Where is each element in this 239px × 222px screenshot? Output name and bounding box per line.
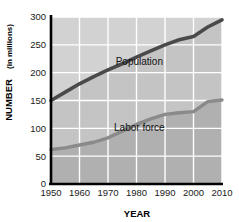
population-labor-force-area-chart: 050100150200250300 195019601970198019902…	[0, 0, 239, 222]
series-annotation-population: Population	[116, 56, 163, 67]
series-annotation-labor-force: Labor force	[114, 122, 165, 133]
x-axis-tick-labels: 1950196019701980199020002010	[40, 187, 232, 198]
y-axis-title-unit: (in millions)	[5, 24, 14, 69]
x-tick-label-1980: 1980	[126, 187, 147, 198]
y-axis-tick-labels: 050100150200250300	[30, 11, 46, 189]
y-tick-label-50: 50	[35, 151, 46, 162]
y-tick-label-150: 150	[30, 95, 46, 106]
y-tick-label-200: 200	[30, 67, 46, 78]
y-tick-label-100: 100	[30, 123, 46, 134]
x-tick-label-1990: 1990	[154, 187, 175, 198]
chart-container: 050100150200250300 195019601970198019902…	[0, 0, 239, 222]
x-tick-label-1970: 1970	[97, 187, 118, 198]
x-tick-label-2000: 2000	[183, 187, 204, 198]
y-tick-label-300: 300	[30, 11, 46, 22]
x-axis-title: YEAR	[124, 208, 151, 219]
y-axis-title-main: NUMBER	[3, 79, 14, 121]
x-tick-label-1960: 1960	[69, 187, 90, 198]
x-tick-label-2010: 2010	[211, 187, 232, 198]
y-axis-title: NUMBER (in millions)	[3, 24, 14, 121]
y-tick-label-250: 250	[30, 39, 46, 50]
x-tick-label-1950: 1950	[40, 187, 61, 198]
